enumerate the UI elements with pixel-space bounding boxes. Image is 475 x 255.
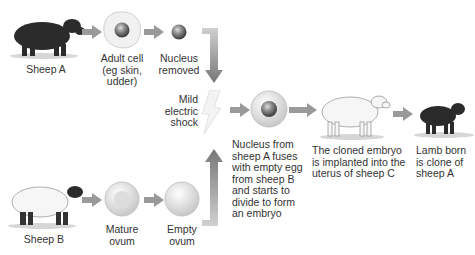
lamb-icon xyxy=(410,100,474,138)
arrow-right-icon xyxy=(144,25,164,39)
adult-cell-label: Adult cell (eg skin, udder) xyxy=(96,53,148,88)
arrow-right-icon xyxy=(230,103,250,117)
adult-cell-icon xyxy=(102,10,142,50)
sheep-b-label: Sheep B xyxy=(12,234,76,246)
fused-egg-icon xyxy=(250,90,288,128)
mature-ovum-label: Mature ovum xyxy=(100,224,144,247)
empty-ovum-label: Empty ovum xyxy=(160,224,204,247)
nucleus-icon xyxy=(171,24,187,40)
arrow-right-icon xyxy=(82,25,102,39)
arrow-up-icon xyxy=(200,148,224,228)
arrow-right-icon xyxy=(289,103,317,117)
empty-ovum-icon xyxy=(164,181,200,217)
mature-ovum-icon xyxy=(104,181,140,217)
lightning-icon xyxy=(200,90,222,134)
electric-shock-label: Mild electric shock xyxy=(150,94,198,129)
lamb-label: Lamb born is clone of sheep A xyxy=(416,145,475,180)
arrow-right-icon xyxy=(144,193,164,207)
implant-label: The cloned embryo is implanted into the … xyxy=(312,145,412,180)
arrow-down-icon xyxy=(200,26,224,84)
nucleus-removed-label: Nucleus removed xyxy=(156,53,202,76)
arrow-right-icon xyxy=(82,193,102,207)
sheep-c-icon xyxy=(316,92,392,140)
sheep-a-label: Sheep A xyxy=(14,64,78,76)
fusion-label: Nucleus from sheep A fuses with empty eg… xyxy=(232,139,312,220)
sheep-a-icon xyxy=(8,12,86,60)
sheep-b-icon xyxy=(6,178,84,230)
